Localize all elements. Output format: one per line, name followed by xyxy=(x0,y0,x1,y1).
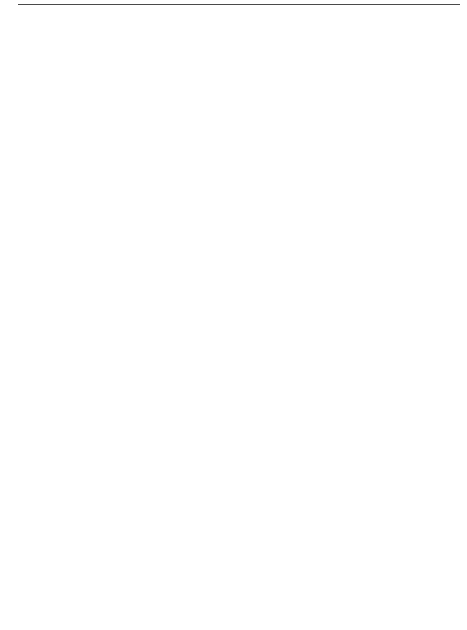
header-rule xyxy=(18,4,460,5)
chart-panel-top xyxy=(0,8,467,313)
figure-caption xyxy=(20,620,460,630)
line-chart-top xyxy=(0,8,467,313)
figure-page xyxy=(0,0,467,630)
chart-panel-bottom xyxy=(0,320,467,610)
line-chart-bottom xyxy=(0,320,467,610)
